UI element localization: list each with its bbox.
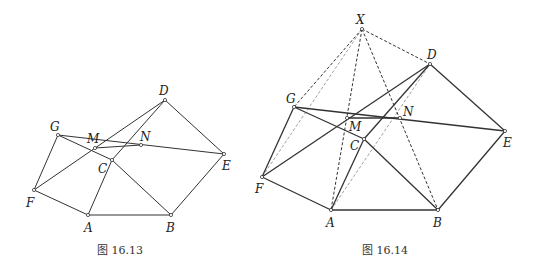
point-label-A: A xyxy=(83,221,93,235)
point-label-C: C xyxy=(350,139,359,153)
point-label-G: G xyxy=(50,120,60,134)
point-M xyxy=(93,146,96,149)
point-X xyxy=(360,27,363,30)
segment-CB xyxy=(364,139,438,210)
segment-BE xyxy=(438,131,505,210)
point-label-A: A xyxy=(325,216,335,230)
point-F xyxy=(32,188,35,191)
point-N xyxy=(398,116,401,119)
point-F xyxy=(260,175,263,178)
point-label-M: M xyxy=(348,120,362,134)
point-D xyxy=(163,98,166,101)
point-C xyxy=(362,137,365,140)
point-B xyxy=(436,208,439,211)
segment-ED xyxy=(430,64,505,131)
point-label-F: F xyxy=(25,196,35,210)
point-A xyxy=(329,208,332,211)
point-E xyxy=(503,129,506,132)
figure-16-13: ABCDEFGMN图 16.13 xyxy=(25,84,231,257)
point-label-F: F xyxy=(254,182,264,196)
figure-caption: 图 16.13 xyxy=(97,244,143,257)
geometry-diagram: ABCDEFGMN图 16.13 XABCDEFGMN图 16.14 xyxy=(0,0,539,274)
point-label-C: C xyxy=(98,162,107,176)
point-B xyxy=(169,213,172,216)
point-label-X: X xyxy=(355,13,365,27)
point-label-M: M xyxy=(86,132,100,146)
segment-BE xyxy=(171,154,224,215)
point-label-B: B xyxy=(432,216,442,230)
segment-AF xyxy=(262,177,331,210)
segment-ED xyxy=(165,100,224,154)
dashed-segment-XG xyxy=(294,29,362,107)
point-label-E: E xyxy=(502,136,512,150)
point-label-N: N xyxy=(139,130,151,144)
dashed-segment-XD xyxy=(362,29,430,64)
point-E xyxy=(222,152,225,155)
point-C xyxy=(110,158,113,161)
point-label-D: D xyxy=(158,84,169,98)
point-label-G: G xyxy=(286,92,296,106)
figure-16-14: XABCDEFGMN图 16.14 xyxy=(254,13,512,257)
light-dashed-segment-XF xyxy=(262,29,362,177)
point-label-D: D xyxy=(426,48,437,62)
segment-AF xyxy=(34,190,88,215)
segment-MN xyxy=(95,145,141,148)
point-label-B: B xyxy=(165,221,175,235)
figure-caption: 图 16.14 xyxy=(362,244,408,257)
point-label-E: E xyxy=(221,159,231,173)
segment-CB xyxy=(112,160,171,215)
segment-DC xyxy=(112,100,165,160)
point-A xyxy=(86,213,89,216)
point-D xyxy=(428,62,431,65)
point-label-N: N xyxy=(402,105,414,119)
